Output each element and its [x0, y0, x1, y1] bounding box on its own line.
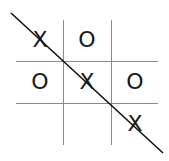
winning-strike-line: [0, 0, 169, 161]
tic-tac-toe-board: X O O X O X: [0, 0, 169, 161]
